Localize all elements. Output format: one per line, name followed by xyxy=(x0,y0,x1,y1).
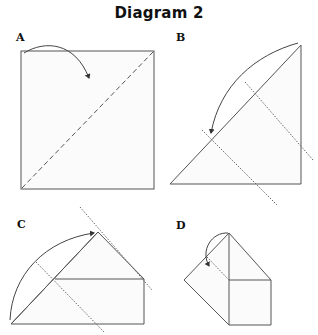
panel-a xyxy=(21,46,154,189)
panel-d xyxy=(184,233,271,325)
paper-shape xyxy=(11,232,144,324)
panel-c xyxy=(10,207,152,333)
fold-diagram xyxy=(0,0,318,335)
panel-b xyxy=(170,43,313,205)
paper-triangle xyxy=(170,45,301,184)
